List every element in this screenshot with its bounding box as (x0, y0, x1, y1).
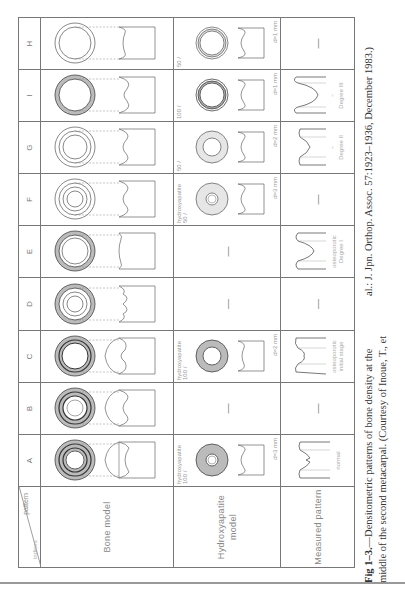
bone-cross-section-icon (47, 72, 167, 120)
measured-d: — (281, 278, 355, 331)
density-curve-icon (290, 230, 330, 274)
bone-model-a (41, 435, 174, 487)
measured-b: — (281, 383, 355, 435)
bone-model-i (41, 70, 174, 122)
hydroxyapatite-phantom-icon (192, 337, 272, 377)
row-label-measured-pattern: Measured pattern (281, 487, 355, 568)
density-curve-icon (290, 335, 330, 379)
pattern-header: pattern (22, 493, 29, 515)
density-curve-icon (294, 439, 334, 483)
hydroxyapatite-e: — (174, 226, 281, 278)
measured-c: osteoporoticinitial stage (281, 331, 355, 383)
pattern-label-g: G (19, 122, 41, 174)
page-divider (0, 582, 405, 584)
measured-f: — (281, 174, 355, 226)
hydroxyapatite-phantom-icon (192, 24, 272, 64)
measured-e: osteoporoticDegree I (281, 226, 355, 278)
hydroxyapatite-g: 50 / d=2 mm (174, 122, 281, 174)
bone-cross-section-icon (47, 333, 167, 381)
density-curve-icon (290, 74, 330, 118)
caption-text-line1: —Densitometric patterns of bone density … (363, 349, 374, 548)
caption-text-line1-continued: al.: J. Jpn. Orthop. Assoc. 57:1923–1936… (362, 47, 376, 296)
bone-model-h (41, 18, 174, 70)
densitometry-figure-table: pattern indices A B C D E F G I H Bone m… (18, 18, 354, 568)
pattern-label-e: E (19, 226, 41, 278)
row-label-hydroxyapatite-model: Hydroxyapatite model (174, 487, 281, 568)
bone-cross-section-icon (47, 124, 167, 172)
bone-cross-section-icon (47, 20, 167, 68)
hydroxyapatite-h: 50 / d=1 mm (174, 18, 281, 70)
bone-cross-section-icon (47, 437, 167, 485)
bone-cross-section-icon (47, 280, 167, 328)
measured-i: "Degree III (281, 70, 355, 122)
pattern-label-d: D (19, 278, 41, 331)
bone-model-g (41, 122, 174, 174)
hydroxyapatite-phantom-icon (192, 128, 272, 168)
bone-model-f (41, 174, 174, 226)
pattern-label-c: C (19, 331, 41, 383)
measured-g: "Degree II (281, 122, 355, 174)
bone-cross-section-icon (47, 228, 167, 276)
bone-model-e (41, 226, 174, 278)
pattern-label-i: I (19, 70, 41, 122)
indices-header: indices (32, 540, 38, 559)
hydroxyapatite-i: 100 / d=1 mm (174, 70, 281, 122)
hydroxyapatite-f: hydroxyapatite50 / d=3 mm (174, 174, 281, 226)
caption-text-line2: middle of the second metacarpal. (Courte… (376, 336, 390, 583)
hydroxyapatite-phantom-icon (192, 180, 272, 220)
pattern-label-f: F (19, 174, 41, 226)
bone-model-c (41, 331, 174, 383)
pattern-label-b: B (19, 383, 41, 435)
hydroxyapatite-a: hydroxyapatite100 / d=3 mm (174, 435, 281, 487)
bone-model-d (41, 278, 174, 331)
bone-model-b (41, 383, 174, 435)
hydroxyapatite-b: — (174, 383, 281, 435)
density-curve-icon (290, 126, 330, 170)
corner-header-cell: pattern indices (19, 487, 41, 568)
bone-cross-section-icon (47, 176, 167, 224)
hydroxyapatite-phantom-icon (192, 441, 272, 481)
pattern-label-h: H (19, 18, 41, 70)
figure-number: Fig 1–3. (363, 547, 374, 583)
row-label-bone-model: Bone model (41, 487, 174, 568)
measured-a: normal (281, 435, 355, 487)
measured-h: — (281, 18, 355, 70)
hydroxyapatite-c: hydroxyapatite100 / d=2 mm (174, 331, 281, 383)
pattern-label-a: A (19, 435, 41, 487)
hydroxyapatite-d: — (174, 278, 281, 331)
hydroxyapatite-phantom-icon (192, 76, 272, 116)
bone-cross-section-icon (47, 385, 167, 433)
